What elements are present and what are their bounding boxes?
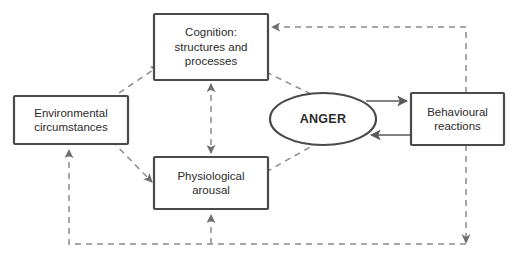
node-behaviour[interactable] bbox=[411, 93, 504, 145]
edge-behaviour-to-cognition bbox=[272, 27, 466, 93]
node-group bbox=[14, 14, 504, 209]
edge-environment-to-cognition bbox=[110, 66, 159, 99]
node-physiology[interactable] bbox=[154, 157, 268, 209]
node-cognition[interactable] bbox=[154, 14, 268, 80]
edge-environment-to-physiology bbox=[112, 141, 152, 182]
anger-process-diagram: Cognition: structures and processes Envi… bbox=[0, 0, 518, 259]
diagram-canvas bbox=[0, 0, 518, 259]
node-environment[interactable] bbox=[14, 96, 128, 144]
node-anger[interactable] bbox=[270, 93, 376, 145]
edge-physiology-to-anger bbox=[266, 142, 319, 172]
